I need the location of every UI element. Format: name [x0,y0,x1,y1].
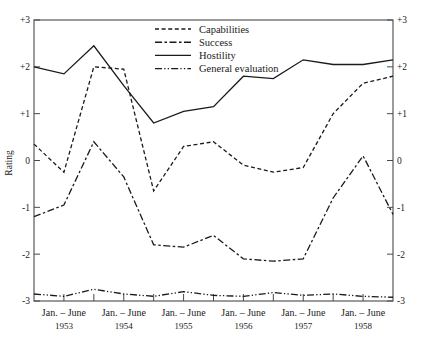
x-axis-category-labels: Jan. – June1953Jan. – June1954Jan. – Jun… [42,307,386,331]
series-line-capabilities [34,67,393,191]
y-tick-label-left: +2 [20,62,30,72]
x-category-period: Jan. – June [102,307,147,318]
x-category-year: 1956 [234,321,253,331]
legend-label-success: Success [199,37,232,48]
x-category-year: 1957 [294,321,313,331]
y-tick-label-left: -3 [22,296,30,306]
y-tick-label-right: +2 [397,62,407,72]
y-tick-label-right: +1 [397,109,407,119]
series-line-success [34,142,393,261]
x-category-period: Jan. – June [42,307,87,318]
x-category-year: 1954 [115,321,134,331]
plot-frame-rect [34,20,393,301]
y-axis-right-ticks: +3+2+10-1-2-3 [387,15,407,306]
chart-legend: CapabilitiesSuccessHostilityGeneral eval… [155,24,279,75]
y-tick-label-right: -2 [397,250,405,260]
y-tick-label-right: 0 [397,156,402,166]
x-category-period: Jan. – June [281,307,326,318]
chart-container: +3+2+10-1-2-3 +3+2+10-1-2-3 Rating Jan. … [0,0,423,340]
x-category-year: 1958 [354,321,373,331]
y-axis-title: Rating [4,150,14,176]
y-tick-label-left: -2 [22,250,30,260]
legend-label-capabilities: Capabilities [199,24,249,35]
x-category-period: Jan. – June [221,307,266,318]
y-tick-label-right: +3 [397,15,407,25]
y-axis-left-ticks: +3+2+10-1-2-3 [20,15,40,306]
x-category-period: Jan. – June [341,307,386,318]
plot-frame [34,20,393,301]
series-lines [34,46,393,297]
x-category-year: 1953 [55,321,74,331]
y-tick-label-left: 0 [25,156,30,166]
y-tick-label-left: +1 [20,109,30,119]
y-tick-label-right: -3 [397,296,405,306]
y-tick-label-left: +3 [20,15,30,25]
legend-label-hostility: Hostility [199,50,237,61]
y-tick-label-left: -1 [22,203,30,213]
y-tick-label-right: -1 [397,203,405,213]
x-category-year: 1955 [175,321,194,331]
rating-line-chart: +3+2+10-1-2-3 +3+2+10-1-2-3 Rating Jan. … [0,0,423,340]
legend-label-general-evaluation: General evaluation [199,63,279,74]
x-category-period: Jan. – June [161,307,206,318]
